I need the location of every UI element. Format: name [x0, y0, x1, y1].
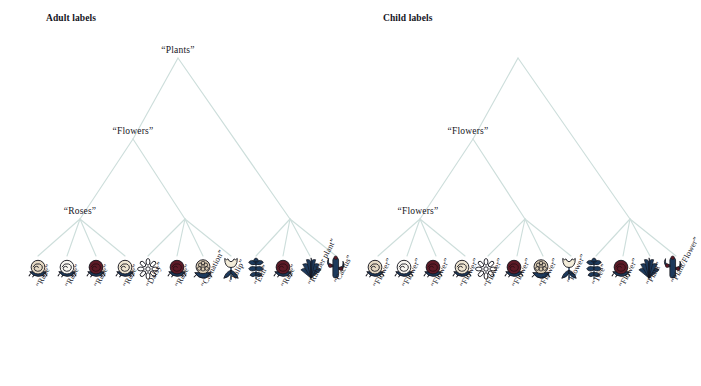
node-label-adult-root: “Plants” [161, 45, 194, 55]
dendrogram-branches [0, 0, 701, 386]
node-label-child-flowers-lower: “Flowers” [398, 206, 439, 216]
figure-canvas: Adult labels “Plants” “Flowers” “Roses” … [0, 0, 701, 386]
node-label-adult-flowers: “Flowers” [113, 126, 154, 136]
node-label-adult-roses: “Roses” [64, 206, 97, 216]
panel-title-child: Child labels [383, 13, 433, 23]
node-label-child-flowers-upper: “Flowers” [448, 126, 489, 136]
panel-title-adult: Adult labels [46, 13, 96, 23]
